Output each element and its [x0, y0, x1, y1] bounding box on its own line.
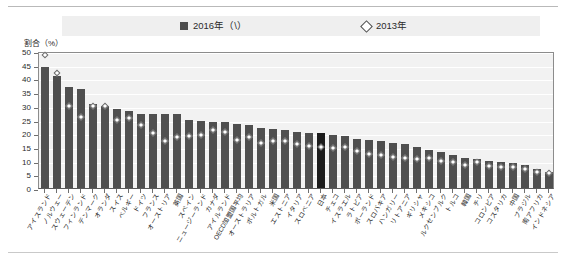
bar [401, 144, 408, 188]
bar [413, 147, 420, 188]
chart-page: 2016年（\） 2013年 割合（%） 0510152025303540455… [0, 0, 566, 261]
page-top-rule [8, 6, 558, 7]
open-diamond-icon [360, 20, 373, 33]
diamond-marker [41, 52, 48, 59]
chart-legend: 2016年（\） 2013年 [62, 16, 540, 36]
bar [377, 141, 384, 188]
y-tick-label: 40 [22, 76, 31, 84]
x-tick-label: 韓国 [460, 193, 472, 208]
bar [233, 124, 240, 188]
page-bottom-rule [8, 252, 558, 253]
legend-item-2016: 2016年（\） [180, 21, 247, 31]
y-tick-label: 20 [22, 131, 31, 139]
y-tick-label: 30 [22, 104, 31, 112]
y-tick-label: 0 [27, 186, 31, 194]
x-axis-labels: アイスランドノルウェースウェーデンフィンランドデンマークオランダスイスベルギード… [38, 193, 554, 259]
bar [305, 133, 312, 188]
y-tick-label: 10 [22, 159, 31, 167]
bar [77, 89, 84, 188]
legend-item-2013: 2013年 [362, 21, 407, 31]
bar [101, 106, 108, 188]
y-tick-label: 50 [22, 49, 31, 57]
y-tick-label: 5 [27, 172, 31, 180]
bar [389, 143, 396, 188]
y-axis: 05101520253035404550 [0, 52, 38, 190]
y-axis-title: 割合（%） [24, 40, 63, 48]
bar [89, 104, 96, 188]
bar [257, 128, 264, 188]
bar [149, 114, 156, 188]
bar [161, 114, 168, 188]
bar [41, 67, 48, 188]
bar [329, 135, 336, 188]
y-tick-label: 15 [22, 145, 31, 153]
y-tick-label: 45 [22, 63, 31, 71]
bar [185, 120, 192, 189]
filled-square-icon [180, 22, 188, 30]
y-tick-label: 25 [22, 118, 31, 126]
legend-label-2013: 2013年 [376, 21, 407, 31]
bar [353, 139, 360, 188]
bar [53, 76, 60, 188]
bar [125, 111, 132, 188]
bar-series-group [39, 53, 553, 188]
plot-area [38, 52, 554, 189]
bar [365, 140, 372, 188]
y-tick-label: 35 [22, 90, 31, 98]
bar [173, 114, 180, 188]
legend-label-2016: 2016年（\） [193, 21, 247, 31]
bar [317, 133, 324, 188]
